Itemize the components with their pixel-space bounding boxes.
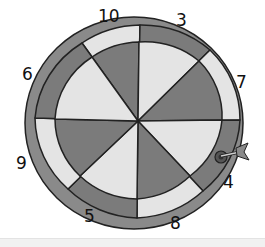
board-number-3: 3 bbox=[176, 10, 187, 30]
bottom-divider bbox=[0, 238, 265, 247]
board-number-9: 9 bbox=[16, 153, 27, 173]
board-number-8: 8 bbox=[170, 213, 181, 233]
board-number-7: 7 bbox=[236, 72, 247, 92]
board-number-5: 5 bbox=[84, 206, 95, 226]
board-number-10: 10 bbox=[98, 6, 120, 26]
board-number-4: 4 bbox=[223, 172, 234, 192]
board-number-6: 6 bbox=[22, 64, 33, 84]
dartboard-illustration: 10 3 7 4 8 5 9 6 bbox=[0, 0, 265, 238]
